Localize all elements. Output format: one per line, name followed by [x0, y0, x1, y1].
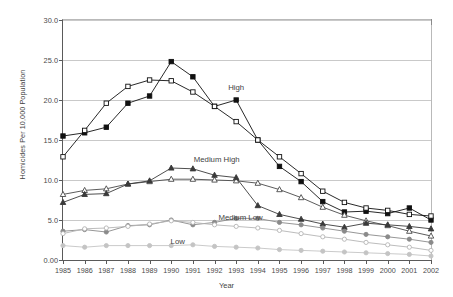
x-tick-label: 2000: [380, 266, 396, 275]
data-point-filled-circle: [386, 235, 390, 239]
series-line: [63, 62, 431, 220]
data-point-filled-circle: [277, 248, 281, 252]
x-tick-label: 1989: [142, 266, 158, 275]
data-point-open-square: [104, 101, 108, 105]
y-tick-label: 15.0: [44, 136, 58, 145]
x-tick-mark: [236, 260, 237, 264]
data-point-filled-circle: [342, 229, 346, 233]
data-point-open-square: [234, 119, 238, 123]
data-point-filled-circle: [386, 252, 390, 256]
data-point-filled-circle: [342, 250, 346, 254]
data-point-open-square: [147, 78, 151, 82]
data-point-open-square: [256, 138, 260, 142]
series-label: Low: [171, 236, 185, 245]
x-tick-label: 1993: [228, 266, 244, 275]
y-tick-label: 5.0: [48, 216, 58, 225]
data-point-open-square: [126, 84, 130, 88]
data-point-filled-square: [321, 199, 325, 203]
x-tick-mark: [301, 260, 302, 264]
series-layer: [63, 20, 431, 260]
data-point-open-square: [407, 212, 411, 216]
x-tick-mark: [85, 260, 86, 264]
series-label: Medium High: [194, 155, 240, 164]
data-point-open-circle: [83, 227, 87, 231]
data-point-filled-square: [147, 94, 151, 98]
y-tick-label: 0.00: [44, 256, 58, 265]
data-point-open-circle: [169, 219, 173, 223]
x-tick-mark: [106, 260, 107, 264]
x-tick-label: 1986: [77, 266, 93, 275]
data-point-filled-circle: [191, 243, 195, 247]
series-0: [61, 59, 433, 222]
x-tick-mark: [366, 260, 367, 264]
series-label: Medium Low: [218, 212, 262, 221]
x-axis-title: Year: [0, 281, 453, 290]
data-point-filled-square: [277, 164, 281, 168]
x-tick-label: 1999: [358, 266, 374, 275]
x-tick-label: 1988: [120, 266, 136, 275]
data-point-filled-square: [126, 101, 130, 105]
data-point-filled-circle: [299, 248, 303, 252]
data-point-open-square: [212, 104, 216, 108]
chart-figure: Homicides Per 10,000 Population Year 0.0…: [0, 0, 453, 297]
data-point-open-circle: [299, 232, 303, 236]
data-point-open-square: [321, 189, 325, 193]
data-point-filled-circle: [256, 246, 260, 250]
data-point-filled-circle: [321, 226, 325, 230]
data-point-filled-triangle: [147, 178, 153, 183]
data-point-open-circle: [61, 232, 65, 236]
data-point-filled-square: [299, 179, 303, 183]
data-point-filled-circle: [277, 220, 281, 224]
data-point-open-circle: [407, 245, 411, 249]
data-point-open-square: [169, 79, 173, 83]
x-tick-mark: [344, 260, 345, 264]
data-point-open-circle: [234, 224, 238, 228]
data-point-filled-circle: [83, 245, 87, 249]
data-point-filled-circle: [104, 244, 108, 248]
data-point-filled-circle: [407, 252, 411, 256]
x-tick-mark: [193, 260, 194, 264]
data-point-open-square: [277, 155, 281, 159]
x-tick-label: 1996: [293, 266, 309, 275]
x-tick-label: 2002: [423, 266, 439, 275]
x-tick-mark: [215, 260, 216, 264]
series-1: [61, 78, 433, 218]
data-point-filled-circle: [321, 249, 325, 253]
x-tick-label: 1990: [163, 266, 179, 275]
x-tick-mark: [409, 260, 410, 264]
x-tick-label: 1997: [315, 266, 331, 275]
data-point-open-circle: [386, 243, 390, 247]
data-point-filled-triangle: [168, 165, 174, 170]
data-point-open-circle: [277, 228, 281, 232]
data-point-open-square: [299, 171, 303, 175]
y-axis-title: Homicides Per 10,000 Population: [18, 45, 27, 205]
series-line: [63, 218, 431, 242]
series-label: High: [228, 83, 244, 92]
data-point-filled-circle: [364, 232, 368, 236]
series-line: [63, 80, 431, 216]
data-point-filled-circle: [429, 240, 433, 244]
x-tick-label: 1998: [336, 266, 352, 275]
data-point-filled-circle: [407, 237, 411, 241]
x-tick-mark: [431, 260, 432, 264]
data-point-open-circle: [191, 220, 195, 224]
x-tick-label: 1985: [55, 266, 71, 275]
x-tick-label: 1995: [271, 266, 287, 275]
x-tick-mark: [128, 260, 129, 264]
data-point-open-circle: [212, 223, 216, 227]
x-tick-mark: [323, 260, 324, 264]
data-point-open-circle: [364, 240, 368, 244]
series-line: [63, 245, 431, 256]
x-tick-label: 1992: [207, 266, 223, 275]
y-tick-label: 20.0: [44, 96, 58, 105]
data-point-open-square: [82, 128, 86, 132]
x-tick-mark: [258, 260, 259, 264]
x-tick-label: 1994: [250, 266, 266, 275]
y-tick-label: 10.0: [44, 176, 58, 185]
data-point-filled-circle: [147, 244, 151, 248]
data-point-open-circle: [429, 248, 433, 252]
series-6: [61, 243, 433, 258]
data-point-filled-square: [61, 134, 65, 138]
data-point-filled-circle: [429, 254, 433, 258]
data-point-filled-circle: [126, 244, 130, 248]
